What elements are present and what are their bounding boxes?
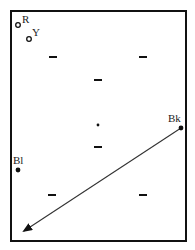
point-r-marker (16, 23, 21, 28)
point-y-label: Y (32, 27, 40, 38)
point-y-marker (27, 37, 32, 42)
dash-marker (94, 146, 102, 148)
dash-marker (94, 79, 102, 81)
direction-arrow (24, 128, 181, 231)
dash-marker (49, 56, 57, 58)
point-bl-marker (16, 168, 21, 173)
point-r-label: R (22, 14, 29, 25)
center-dot (97, 124, 100, 127)
point-bk-label: Bk (168, 113, 181, 124)
point-bk-marker (179, 126, 184, 131)
diagram-canvas (0, 0, 195, 250)
dash-marker (139, 56, 147, 58)
dash-marker (139, 194, 147, 196)
dash-marker (48, 194, 56, 196)
point-bl-label: Bl (13, 155, 23, 166)
